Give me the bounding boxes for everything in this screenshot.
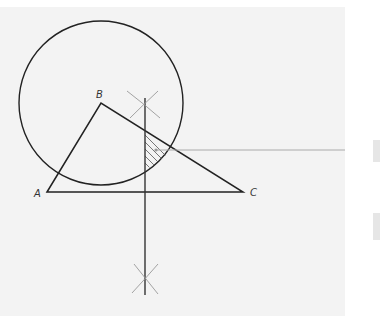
geometry-diagram: B A C — [0, 0, 380, 323]
hatched-region — [135, 118, 182, 200]
construction-mark-top — [127, 91, 160, 118]
label-a: A — [33, 188, 41, 199]
label-b: B — [96, 89, 103, 100]
leader-dot — [154, 148, 157, 151]
label-c: C — [250, 187, 257, 198]
